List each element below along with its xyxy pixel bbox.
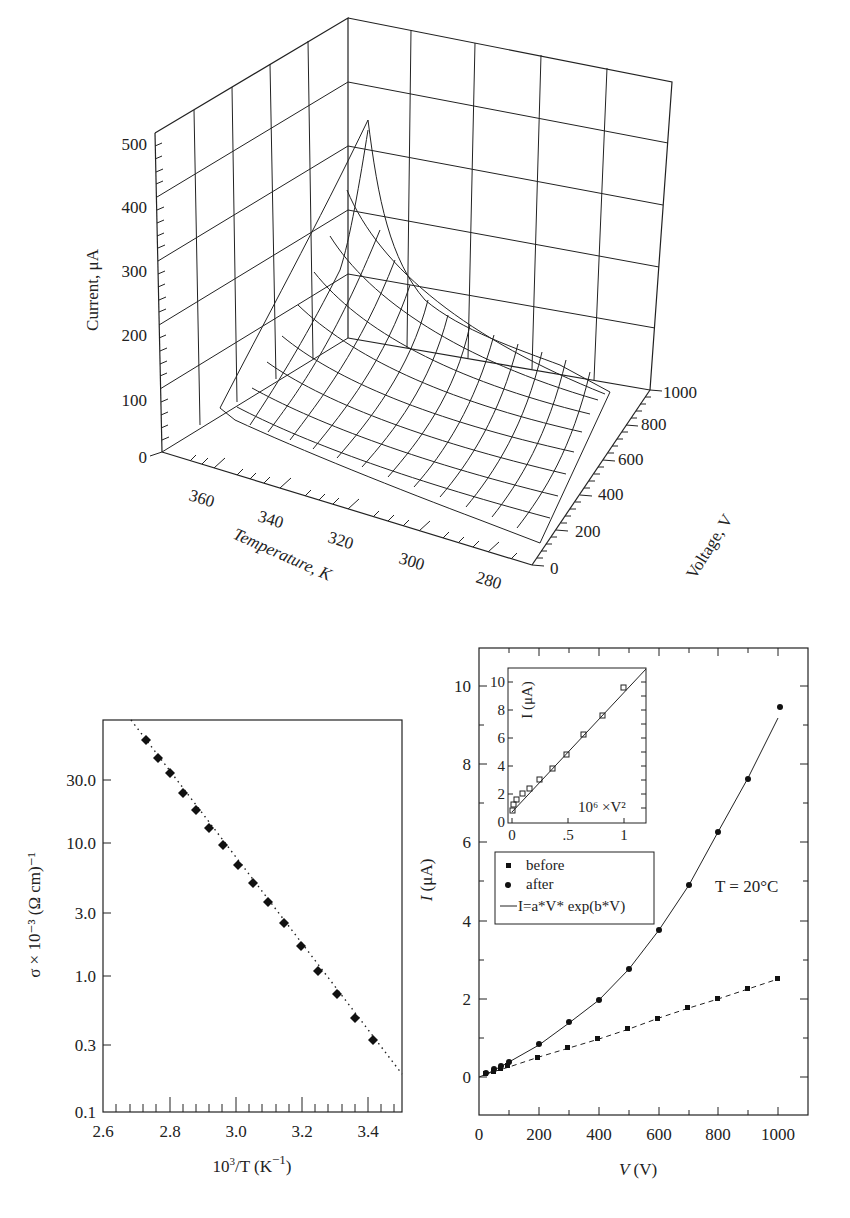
svg-text:30.0: 30.0 <box>66 771 96 790</box>
svg-text:0: 0 <box>508 827 516 843</box>
surface-x-axis: 360 340 320 300 280 Temperature, K <box>187 455 517 593</box>
svg-text:2: 2 <box>463 990 472 1009</box>
svg-text:before: before <box>526 857 565 873</box>
svg-text:0: 0 <box>550 559 559 578</box>
before-fit-line <box>486 979 778 1074</box>
svg-text:10: 10 <box>490 674 505 690</box>
svg-text:400: 400 <box>122 198 148 217</box>
svg-text:200: 200 <box>122 326 148 345</box>
svg-text:I=a*V* exp(b*V): I=a*V* exp(b*V) <box>518 898 625 915</box>
svg-text:0.1: 0.1 <box>75 1103 96 1122</box>
svg-text:360: 360 <box>187 486 217 512</box>
svg-text:1.0: 1.0 <box>75 967 96 986</box>
svg-text:320: 320 <box>326 528 356 554</box>
before-data-points <box>483 976 780 1076</box>
arrhenius-y-label: σ × 10⁻³ (Ω cm)⁻¹ <box>25 852 44 978</box>
svg-text:3.2: 3.2 <box>291 1122 312 1141</box>
svg-text:1000: 1000 <box>663 383 697 402</box>
surface-z-label: Current, μA <box>83 248 102 331</box>
svg-text:2.8: 2.8 <box>159 1122 180 1141</box>
iv-inset: 0 2 4 6 8 10 0 .5 1 I (μA) 10⁶ ×V² <box>490 668 646 843</box>
surface-back-walls <box>155 18 672 565</box>
svg-text:6: 6 <box>498 730 506 746</box>
svg-text:600: 600 <box>618 450 644 469</box>
svg-text:200: 200 <box>575 522 601 541</box>
svg-text:6: 6 <box>463 833 472 852</box>
surface-mesh <box>220 120 610 543</box>
arrhenius-chart: 0.1 0.3 1.0 3.0 10.0 30.0 σ × 10⁻³ (Ω cm… <box>25 720 402 1176</box>
surface-y-label: Voltage, V <box>682 510 737 582</box>
svg-text:800: 800 <box>641 415 667 434</box>
inset-y-label: I (μA) <box>519 681 536 719</box>
svg-text:3.0: 3.0 <box>75 904 96 923</box>
svg-text:10.0: 10.0 <box>66 834 96 853</box>
svg-text:after: after <box>526 876 553 892</box>
svg-text:0: 0 <box>475 1125 484 1144</box>
svg-text:100: 100 <box>122 391 148 410</box>
svg-text:340: 340 <box>256 507 286 533</box>
svg-text:500: 500 <box>122 135 148 154</box>
svg-text:400: 400 <box>586 1125 612 1144</box>
iv-y-label: I (μA) <box>417 859 436 903</box>
svg-text:.5: .5 <box>562 827 573 843</box>
temperature-annotation: T = 20°C <box>715 877 778 896</box>
svg-text:600: 600 <box>646 1125 672 1144</box>
iv-chart: 0 2 4 6 8 10 I (μA) 0 200 400 600 800 10… <box>417 648 808 1179</box>
inset-x-label: 10⁶ ×V² <box>578 799 626 815</box>
svg-text:2.6: 2.6 <box>92 1122 113 1141</box>
svg-text:8: 8 <box>463 755 472 774</box>
surface-x-label: Temperature, K <box>230 524 336 585</box>
iv-legend: before after I=a*V* exp(b*V) <box>495 852 654 924</box>
arrhenius-x-label: 103/T (K−1) <box>212 1152 291 1176</box>
svg-text:0: 0 <box>498 814 506 830</box>
svg-text:10: 10 <box>454 677 471 696</box>
svg-text:8: 8 <box>498 702 506 718</box>
iv-x-label: V (V) <box>619 1160 657 1179</box>
svg-text:300: 300 <box>397 549 427 575</box>
svg-text:4: 4 <box>463 912 472 931</box>
svg-text:2: 2 <box>498 786 506 802</box>
svg-text:0: 0 <box>139 448 148 467</box>
svg-text:4: 4 <box>498 758 506 774</box>
svg-text:1: 1 <box>620 827 628 843</box>
svg-text:300: 300 <box>122 262 148 281</box>
svg-text:800: 800 <box>705 1125 731 1144</box>
svg-text:280: 280 <box>474 568 504 594</box>
arrhenius-data-points <box>141 735 378 1045</box>
svg-text:1000: 1000 <box>761 1125 795 1144</box>
surface-3d-chart: 0 100 200 300 400 500 Current, μA <box>0 0 850 1218</box>
svg-text:0: 0 <box>463 1068 472 1087</box>
svg-text:3.0: 3.0 <box>225 1122 246 1141</box>
svg-text:3.4: 3.4 <box>357 1122 379 1141</box>
svg-text:400: 400 <box>598 485 624 504</box>
svg-text:0.3: 0.3 <box>75 1036 96 1055</box>
svg-text:200: 200 <box>526 1125 552 1144</box>
